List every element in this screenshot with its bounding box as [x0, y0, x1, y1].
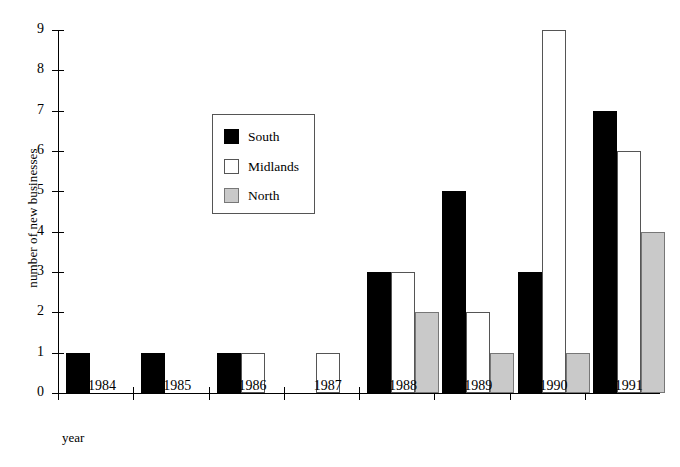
legend-label-south: South: [248, 129, 280, 144]
bars-layer: [58, 30, 660, 393]
x-category-label-1985: 1985: [163, 378, 191, 394]
bar-chart: number of new businesses 0123456789 1984…: [0, 0, 680, 467]
plot-area: 0123456789: [58, 30, 660, 393]
x-category-label-1991: 1991: [615, 378, 643, 394]
x-category-label-1986: 1986: [239, 378, 267, 394]
x-axis-title: year: [62, 430, 84, 446]
y-tick-label-2: 2: [37, 303, 44, 319]
legend-label-north: North: [248, 188, 280, 203]
bar-south-1986: [217, 353, 241, 393]
legend-item-north: North: [224, 187, 280, 203]
south-swatch-icon: [224, 129, 239, 144]
bar-north-1989: [490, 353, 514, 393]
legend: South Midlands North: [212, 114, 315, 214]
bar-midlands-1988: [391, 272, 415, 393]
y-tick-label-8: 8: [37, 61, 44, 77]
north-swatch-icon: [224, 188, 239, 203]
y-tick-label-7: 7: [37, 102, 44, 118]
legend-item-midlands: Midlands: [224, 158, 299, 174]
x-category-label-1988: 1988: [389, 378, 417, 394]
bar-south-1984: [66, 353, 90, 393]
bar-midlands-1990: [542, 30, 566, 393]
bar-north-1991: [641, 232, 665, 393]
bar-midlands-1991: [617, 151, 641, 393]
bar-north-1990: [566, 353, 590, 393]
bar-south-1989: [442, 191, 466, 393]
bar-north-1988: [415, 312, 439, 393]
bar-south-1985: [141, 353, 165, 393]
y-tick-label-5: 5: [37, 182, 44, 198]
bar-south-1991: [593, 111, 617, 393]
legend-item-south: South: [224, 128, 280, 144]
y-tick-label-3: 3: [37, 263, 44, 279]
x-category-label-1989: 1989: [464, 378, 492, 394]
x-category-label-1987: 1987: [314, 378, 342, 394]
bar-south-1990: [518, 272, 542, 393]
midlands-swatch-icon: [224, 159, 239, 174]
x-category-label-1990: 1990: [540, 378, 568, 394]
y-tick-label-4: 4: [37, 223, 44, 239]
y-tick-label-6: 6: [37, 142, 44, 158]
x-category-label-1984: 1984: [88, 378, 116, 394]
y-tick-label-1: 1: [37, 344, 44, 360]
y-tick-label-9: 9: [37, 21, 44, 37]
bar-south-1988: [367, 272, 391, 393]
legend-label-midlands: Midlands: [248, 159, 299, 174]
y-tick-label-0: 0: [37, 384, 44, 400]
